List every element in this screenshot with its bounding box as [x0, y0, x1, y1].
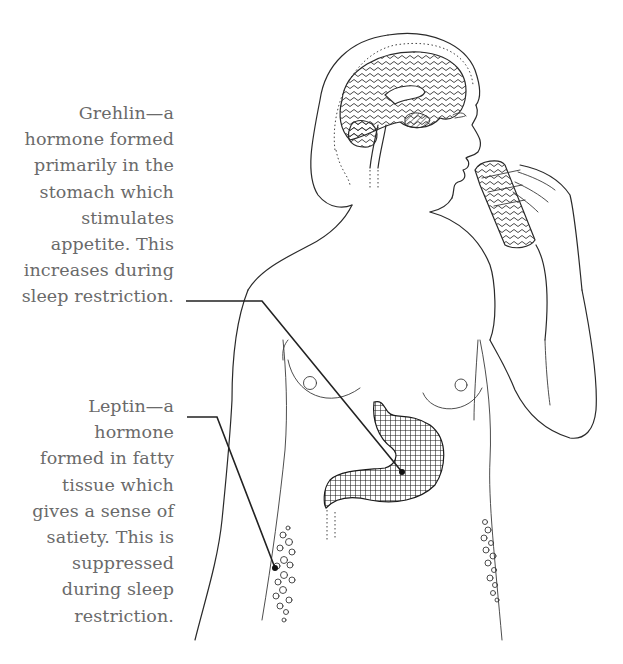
leptin-leader-line	[187, 417, 275, 568]
leptin-leader-dot	[272, 565, 278, 571]
food-icon	[475, 161, 535, 248]
ghrelin-leader-dot	[399, 469, 405, 475]
anatomical-illustration	[0, 0, 623, 664]
ghrelin-leader-line	[186, 301, 402, 472]
fatty-tissue-left-icon	[273, 526, 295, 622]
body-outline-left	[195, 290, 248, 640]
stomach-icon	[324, 402, 444, 508]
fatty-tissue-right-icon	[481, 520, 499, 603]
brain-icon	[340, 52, 466, 190]
face-profile	[452, 105, 480, 198]
